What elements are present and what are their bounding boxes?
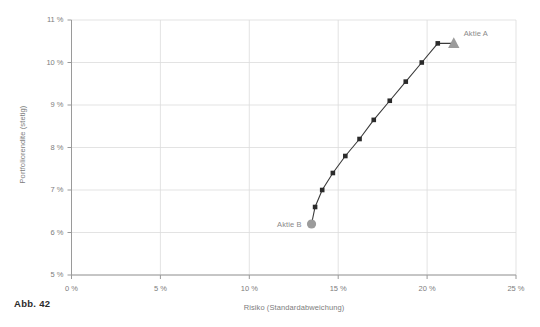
y-axis-tick-label: 5 %: [24, 270, 64, 279]
marker-circle-aktie-b: [307, 219, 316, 228]
data-point-square: [343, 154, 348, 159]
x-axis-tick-label: 0 %: [50, 284, 94, 293]
y-axis-tick-label: 7 %: [24, 185, 64, 194]
data-point-square: [371, 118, 376, 123]
y-axis-tick-label: 8 %: [24, 143, 64, 152]
data-point-square: [331, 171, 336, 176]
y-axis-tick-label: 11 %: [24, 15, 64, 24]
chart-plot-area: [0, 0, 540, 327]
series-line: [312, 43, 454, 224]
data-point-square: [403, 79, 408, 84]
data-point-square: [320, 188, 325, 193]
data-point-square: [387, 98, 392, 103]
annotation-label-aktie-b: Aktie B: [260, 220, 302, 229]
figure-container: 5 %6 %7 %8 %9 %10 %11 % 0 %5 %10 %15 %20…: [0, 0, 540, 327]
x-axis-tick-label: 20 %: [405, 284, 449, 293]
x-axis-tick-label: 10 %: [227, 284, 271, 293]
figure-caption: Abb. 42: [14, 298, 50, 309]
x-axis-tick-label: 5 %: [138, 284, 182, 293]
x-axis-tick-label: 15 %: [316, 284, 360, 293]
annotation-label-aktie-a: Aktie A: [464, 29, 488, 38]
data-point-square: [357, 137, 362, 142]
data-point-square: [419, 60, 424, 65]
marker-triangle-aktie-a: [448, 37, 459, 48]
x-axis-tick-label: 25 %: [494, 284, 538, 293]
data-point-square: [435, 41, 440, 46]
y-axis-tick-label: 9 %: [24, 100, 64, 109]
data-point-square: [313, 205, 318, 210]
y-axis-tick-label: 10 %: [24, 58, 64, 67]
x-axis-title: Risiko (Standardabweichung): [72, 303, 516, 312]
y-axis-tick-label: 6 %: [24, 228, 64, 237]
y-axis-title: Portfoliorendite (stetig): [18, 85, 27, 205]
